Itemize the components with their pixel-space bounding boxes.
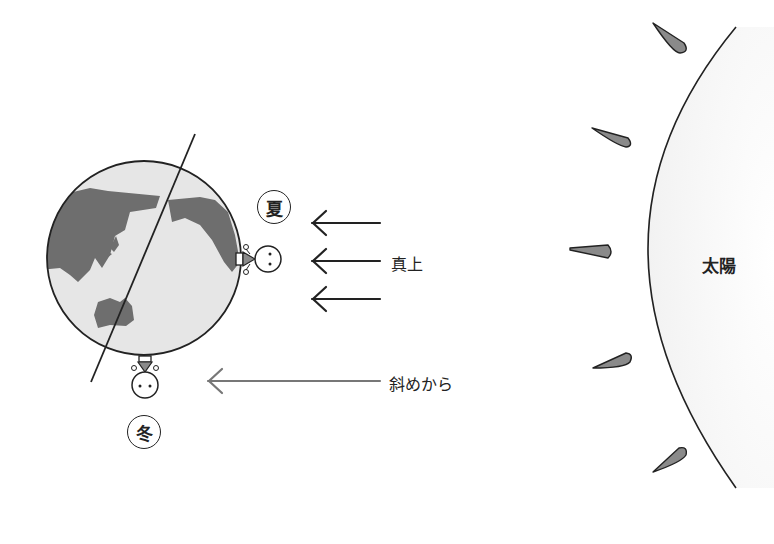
winter-head [132, 372, 158, 398]
sun-ray-icon [593, 353, 631, 368]
winter-badge: 冬 [127, 415, 161, 449]
sun-ray-icon [570, 245, 611, 258]
sun-ray-icon [653, 23, 686, 53]
sun-ray-icon [653, 448, 686, 472]
sun [570, 23, 774, 488]
earth [40, 134, 241, 382]
summer-arrows [312, 211, 380, 311]
arrow-left-icon [312, 249, 380, 273]
arrow-left-icon [312, 287, 380, 311]
winter-arrow [208, 369, 380, 393]
direct-label: 真上 [391, 251, 423, 275]
winter-person [132, 356, 159, 398]
sun-label: 太陽 [702, 252, 736, 277]
sun-ray-icon [592, 128, 631, 147]
summer-person [236, 245, 281, 275]
oblique-label: 斜めから [389, 371, 453, 395]
arrow-left-icon [312, 211, 380, 235]
diagram-canvas [0, 0, 774, 544]
summer-head [255, 246, 281, 272]
summer-badge: 夏 [257, 190, 291, 224]
